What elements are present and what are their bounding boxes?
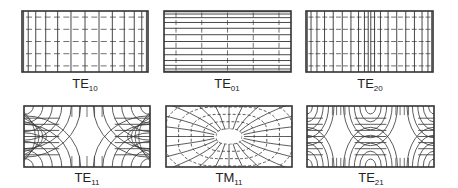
waveguide-mode-diagram [0,0,458,188]
mode-te01-pattern [164,11,291,72]
mode-te11-pattern [24,106,150,167]
label-te01: TE01 [214,76,240,93]
mode-te20-pattern [306,11,433,72]
label-te21: TE21 [358,170,384,187]
label-te10: TE10 [72,76,98,93]
label-te11: TE11 [75,170,100,187]
mode-te10-pattern [22,11,148,72]
mode-te21-pattern [307,106,434,167]
label-te20: TE20 [357,76,383,93]
label-tm11: TM11 [215,170,242,187]
